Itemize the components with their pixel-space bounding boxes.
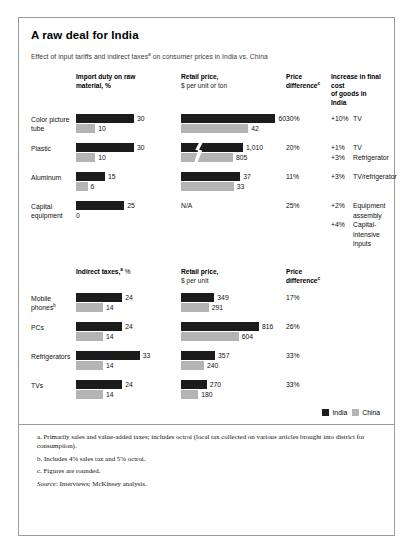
retail-price-bars: N/A bbox=[181, 201, 286, 209]
bar-china-duty bbox=[76, 153, 95, 162]
retail-price-bars: 816604 bbox=[181, 322, 286, 342]
row-label: Color picturetube bbox=[31, 114, 76, 133]
bar-india-duty bbox=[76, 114, 134, 123]
bar-china-tax-value: 14 bbox=[106, 333, 114, 340]
subtitle-text-tail: on consumer prices in India vs. China bbox=[151, 53, 268, 60]
increase-cost-label: TV/refrigerator bbox=[353, 172, 397, 181]
legend-label-china: China bbox=[362, 409, 380, 416]
table-row: Aluminum156373311%+3%TV/refrigerator bbox=[31, 172, 382, 192]
indirect-tax-bars: 3314 bbox=[76, 351, 181, 371]
legend-label-india: India bbox=[332, 409, 347, 416]
indirect-taxes-header-text: Indirect taxes, bbox=[76, 268, 120, 275]
increase-cost-item: +2%Equipment assembly bbox=[331, 201, 386, 220]
bar-india-duty-value: 30 bbox=[137, 144, 145, 151]
bar-china-duty-line: 6 bbox=[76, 182, 181, 191]
bar-india-tax bbox=[76, 351, 140, 360]
retail-price-bars: 349291 bbox=[181, 293, 286, 313]
bar-china-retail-line: 240 bbox=[181, 361, 286, 370]
retail-price-bars: 3733 bbox=[181, 172, 286, 192]
bar-india-tax-value: 24 bbox=[125, 323, 133, 330]
section2-header-row: Indirect taxes,a % Retail price, $ per u… bbox=[31, 268, 382, 285]
bar-china-retail-value: 291 bbox=[212, 304, 223, 311]
bar-china-tax-line: 14 bbox=[76, 332, 181, 341]
source-label: Source bbox=[37, 480, 56, 487]
bar-china-tax bbox=[76, 332, 103, 341]
indirect-taxes-header-line1: Indirect taxes,a % bbox=[76, 268, 181, 277]
price-difference2-header-line2: differencec bbox=[286, 277, 331, 286]
retail-price-bars: 1,010805 bbox=[181, 143, 286, 163]
price-difference-value: 11% bbox=[286, 172, 331, 180]
bar-china-tax-value: 14 bbox=[106, 362, 114, 369]
bar-india-retail-value: 60 bbox=[278, 115, 286, 122]
table-row: Plastic30101,01080520%+1%TV+3%Refrigerat… bbox=[31, 143, 382, 163]
bar-china-retail-line: 180 bbox=[181, 390, 286, 399]
section-spacer bbox=[31, 257, 382, 268]
bar-india-duty-line: 15 bbox=[76, 172, 181, 181]
bar-india-retail-value: 357 bbox=[218, 352, 229, 359]
section1-header-price-difference: Price differencec bbox=[286, 73, 331, 90]
section2-header-indirect-taxes: Indirect taxes,a % bbox=[76, 268, 181, 277]
section2-header-price-difference: Price differencec bbox=[286, 268, 331, 285]
bar-china-duty-line: 10 bbox=[76, 153, 181, 162]
section2-rows: Mobilephonesb241434929117%PCs24148166042… bbox=[31, 293, 382, 400]
increase-cost-percent: +3% bbox=[331, 153, 353, 162]
bar-india-duty bbox=[76, 201, 124, 210]
exhibit-body: A raw deal for India Effect of input tar… bbox=[19, 18, 394, 488]
bar-china-retail-value: 33 bbox=[237, 183, 245, 190]
row-label: TVs bbox=[31, 380, 76, 390]
increase-cost-item: +1%TV bbox=[331, 143, 389, 152]
increase-cost-label: Refrigerator bbox=[353, 153, 389, 162]
retail-price-bars: 6042 bbox=[181, 114, 286, 134]
import-duty-bars: 3010 bbox=[76, 143, 181, 163]
indirect-taxes-header-unit: % bbox=[123, 268, 131, 275]
bar-india-duty-value: 15 bbox=[108, 173, 116, 180]
increase-cost-list: +10%TV bbox=[331, 114, 382, 123]
bar-china-retail-line: 805 bbox=[181, 153, 286, 162]
bar-china-retail-value: 604 bbox=[242, 333, 253, 340]
bar-india-retail bbox=[181, 322, 259, 331]
bar-india-tax-value: 24 bbox=[125, 381, 133, 388]
row-label: Plastic bbox=[31, 143, 76, 153]
bar-india-retail-value: 816 bbox=[262, 323, 273, 330]
source-line: Source: Interviews; McKinsey analysis. bbox=[37, 479, 377, 488]
bar-china-duty-value: 0 bbox=[76, 212, 80, 219]
bar-india-tax-line: 24 bbox=[76, 380, 181, 389]
bar-china-retail-line: 33 bbox=[181, 182, 286, 191]
bar-india-retail bbox=[181, 351, 215, 360]
indirect-tax-bars: 2414 bbox=[76, 293, 181, 313]
row-label: Aluminum bbox=[31, 172, 76, 182]
increase-cost-label: TV bbox=[353, 114, 382, 123]
section1-header-increase-cost: Increase in final cost of goods in India bbox=[331, 73, 382, 107]
retail-price-header-line1: Retail price, bbox=[181, 73, 286, 82]
increase-cost-label: TV bbox=[353, 143, 389, 152]
import-duty-bars: 250 bbox=[76, 201, 181, 221]
bar-india-tax-line: 24 bbox=[76, 293, 181, 302]
increase-cost-list: +3%TV/refrigerator bbox=[331, 172, 397, 181]
bar-india-retail bbox=[181, 293, 214, 302]
table-row: Color picturetube3010604230%+10%TV bbox=[31, 114, 382, 134]
price-difference-header-text: difference bbox=[286, 82, 318, 89]
bar-china-tax bbox=[76, 303, 103, 312]
bar-india-retail-line: 1,010 bbox=[181, 143, 286, 152]
bar-india-duty bbox=[76, 172, 105, 181]
bar-india-retail-line: 349 bbox=[181, 293, 286, 302]
increase-cost-percent: +1% bbox=[331, 143, 353, 152]
section1-header-import-duty: Import duty on raw material, % bbox=[76, 73, 181, 90]
bar-china-retail-line: 291 bbox=[181, 303, 286, 312]
price-difference-value: 25% bbox=[286, 201, 331, 209]
bar-india-retail bbox=[181, 143, 243, 152]
bar-china-retail bbox=[181, 303, 209, 312]
price-difference2-header-line1: Price bbox=[286, 268, 331, 277]
bar-china-retail bbox=[181, 361, 204, 370]
bar-india-duty-line: 30 bbox=[76, 143, 181, 152]
section1-header-retail-price: Retail price, $ per unit or ton bbox=[181, 73, 286, 90]
row-label: Mobilephonesb bbox=[31, 293, 76, 312]
import-duty-header-line1: Import duty on raw bbox=[76, 73, 181, 82]
bar-india-tax bbox=[76, 293, 122, 302]
exhibit-card: A raw deal for India Effect of input tar… bbox=[18, 17, 395, 536]
increase-cost-header-line2: of goods in India bbox=[331, 90, 382, 107]
increase-cost-item: +3%TV/refrigerator bbox=[331, 172, 397, 181]
retail-price-bars: 270180 bbox=[181, 380, 286, 400]
table-row: TVs241427018033% bbox=[31, 380, 382, 400]
bar-india-tax-line: 24 bbox=[76, 322, 181, 331]
